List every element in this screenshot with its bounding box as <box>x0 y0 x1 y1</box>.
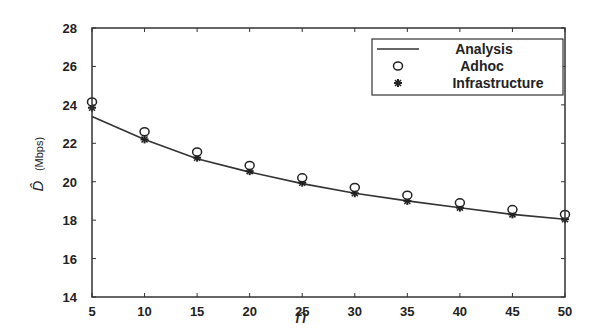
x-tick-label: 30 <box>348 304 362 319</box>
y-axis-label: D̂ (Mbps) <box>29 137 46 192</box>
y-tick-label: 22 <box>63 136 77 151</box>
adhoc-marker <box>403 191 412 199</box>
legend: AnalysisAdhocInfrastructure <box>372 39 563 95</box>
x-tick-label: 40 <box>453 304 467 319</box>
y-axis-label-symbol: D̂ <box>29 180 46 191</box>
x-tick-label: 45 <box>505 304 519 319</box>
y-tick-label: 16 <box>63 252 77 267</box>
y-tick-label: 18 <box>63 213 77 228</box>
legend-label: Analysis <box>455 41 513 57</box>
x-tick-label: 35 <box>400 304 414 319</box>
adhoc-marker <box>508 206 517 214</box>
y-axis-label-unit: (Mbps) <box>33 137 45 171</box>
chart: 51015202530354045501416182022242628 Anal… <box>0 0 606 334</box>
adhoc-marker <box>245 161 254 169</box>
legend-circle-swatch <box>394 62 403 70</box>
adhoc-marker <box>140 128 149 136</box>
infrastructure-marker <box>141 135 149 143</box>
legend-star-swatch <box>394 79 402 87</box>
y-tick-label: 14 <box>63 290 78 305</box>
legend-label: Infrastructure <box>452 75 543 91</box>
x-axis-label: n <box>295 305 306 327</box>
y-tick-label: 26 <box>63 59 77 74</box>
x-tick-label: 5 <box>88 304 95 319</box>
y-tick-label: 28 <box>63 21 77 36</box>
y-tick-label: 20 <box>63 175 77 190</box>
analysis-line <box>92 116 565 219</box>
x-tick-label: 15 <box>190 304 204 319</box>
legend-label: Adhoc <box>460 58 504 74</box>
adhoc-marker <box>193 148 202 156</box>
adhoc-marker <box>350 183 359 191</box>
plot-area <box>88 98 570 223</box>
y-tick-label: 24 <box>63 98 78 113</box>
adhoc-marker <box>298 174 307 182</box>
x-tick-label: 10 <box>137 304 151 319</box>
x-tick-label: 50 <box>558 304 572 319</box>
x-tick-label: 20 <box>242 304 256 319</box>
adhoc-marker <box>455 199 464 207</box>
